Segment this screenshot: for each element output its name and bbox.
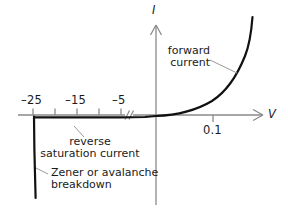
reverse-saturation-current-annotation: reverse saturation current: [24, 136, 156, 161]
x-tick-label-minus-25: –25: [21, 94, 42, 107]
x-axis-negative-ticks: [33, 109, 121, 116]
zener-breakdown-annotation-line-2: breakdown: [51, 179, 201, 191]
forward-current-annotation-line-2: current: [120, 57, 210, 69]
zener-breakdown-leader-line: [36, 168, 48, 174]
diode-iv-characteristic-figure: I V –25 –15 –5 0.1 forward current rever…: [0, 0, 288, 210]
x-axis-label: V: [268, 108, 276, 121]
x-tick-label-minus-5: –5: [112, 94, 125, 107]
zener-breakdown-annotation: Zener or avalanche breakdown: [51, 167, 201, 192]
forward-current-leader-line: [210, 60, 237, 73]
reverse-saturation-current-curve: [34, 116, 156, 117]
y-axis-label: I: [152, 4, 155, 17]
reverse-saturation-annotation-line-2: saturation current: [24, 148, 156, 160]
x-tick-label-0-1: 0.1: [203, 124, 222, 137]
x-tick-label-minus-15: –15: [65, 94, 86, 107]
forward-current-annotation: forward current: [120, 45, 210, 70]
